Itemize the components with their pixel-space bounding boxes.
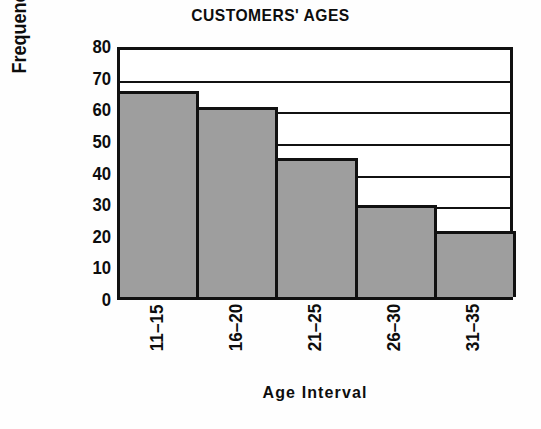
y-tick-60: 60 <box>71 100 111 119</box>
y-axis-title: Frequency <box>8 0 34 100</box>
bar-11–15 <box>120 91 199 297</box>
y-tick-20: 20 <box>71 227 111 246</box>
plot-inner <box>120 50 510 297</box>
y-tick-50: 50 <box>71 132 111 151</box>
y-tick-0: 0 <box>71 290 111 309</box>
x-tick-label-11–15: 11–15 <box>146 283 168 351</box>
y-tick-80: 80 <box>71 37 111 56</box>
x-tick-label-16–20: 16–20 <box>225 283 247 351</box>
y-axis-tick-labels: 01020304050607080 <box>55 0 111 429</box>
gridline-70 <box>120 81 510 83</box>
y-tick-10: 10 <box>71 258 111 277</box>
x-tick-slot-21–25: 21–25 <box>275 302 354 382</box>
bar-16–20 <box>199 107 278 297</box>
x-tick-label-31–35: 31–35 <box>462 283 484 351</box>
x-tick-label-21–25: 21–25 <box>304 283 326 351</box>
x-tick-slot-26–30: 26–30 <box>355 302 434 382</box>
bar-21–25 <box>278 158 357 297</box>
x-axis-tick-labels: 11–1516–2021–2526–3031–35 <box>117 302 513 382</box>
x-tick-label-26–30: 26–30 <box>383 283 405 351</box>
y-tick-40: 40 <box>71 164 111 183</box>
x-axis-title: Age Interval <box>129 383 501 403</box>
x-tick-slot-16–20: 16–20 <box>196 302 275 382</box>
plot-area <box>117 47 513 300</box>
chart-figure: CUSTOMERS' AGES Frequency 01020304050607… <box>0 0 541 429</box>
y-tick-30: 30 <box>71 195 111 214</box>
x-tick-slot-11–15: 11–15 <box>117 302 196 382</box>
x-tick-slot-31–35: 31–35 <box>434 302 513 382</box>
y-tick-70: 70 <box>71 69 111 88</box>
